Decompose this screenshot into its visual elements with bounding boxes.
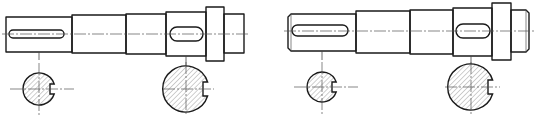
right-shaft-segment-2 [356,11,410,53]
left-section-large [163,62,214,116]
right-shaft-segment-1 [288,14,356,51]
right-section-small [294,62,358,114]
shaft-drawing [0,0,539,121]
right-shaft-segment-4 [453,8,492,56]
left-shaft-end [224,14,244,53]
left-shaft-segment-1 [6,17,72,52]
right-keyway-1 [292,25,348,36]
right-section-large [445,62,500,114]
right-shaft-collar [492,3,511,60]
left-shaft-view [2,7,248,66]
right-shaft-view [284,3,534,66]
left-section-small [10,63,74,115]
right-shaft-segment-3 [410,10,453,54]
